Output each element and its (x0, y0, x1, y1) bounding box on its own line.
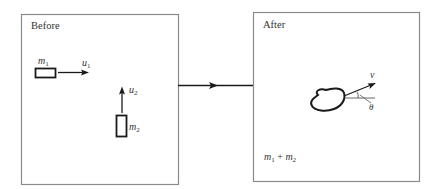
combined-mass-blob (311, 88, 344, 110)
combined-mass-label: m1 + m2 (264, 152, 296, 164)
transition-arrow-icon (178, 82, 253, 89)
mass-2-block (117, 116, 127, 137)
velocity-u1-label: u1 (82, 58, 91, 70)
after-panel-title: After (263, 20, 285, 31)
diagram-canvas (0, 0, 437, 189)
velocity-u1-arrow-icon (58, 70, 89, 76)
before-panel-title: Before (31, 21, 60, 32)
velocity-v-label: v (370, 70, 374, 80)
velocity-u2-label: u2 (129, 85, 138, 97)
mass-1-label: m1 (38, 56, 49, 68)
mass-1-block (36, 69, 56, 78)
before-panel-frame (22, 15, 179, 185)
mass-2-label: m2 (129, 122, 140, 134)
angle-arc-icon (357, 92, 358, 98)
velocity-u2-arrow-icon (119, 87, 125, 114)
angle-theta-label: θ (369, 103, 373, 112)
velocity-v-arrow-icon (344, 83, 376, 96)
